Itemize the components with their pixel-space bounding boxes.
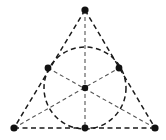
median-bottomleft-to-right [14, 68, 119, 128]
medians-group [14, 10, 155, 128]
geometry-figure-svg [0, 0, 166, 140]
median-bottomright-to-left [48, 68, 155, 128]
apex-vertex [81, 6, 88, 13]
incenter [82, 85, 88, 91]
geometry-figure-container [0, 0, 166, 140]
tangent-points-group [45, 65, 123, 132]
bottom-left-vertex [10, 124, 17, 131]
bottom-right-vertex [151, 124, 158, 131]
bottom-tangent-point [82, 125, 89, 132]
left-tangent-point [45, 65, 52, 72]
incenter-group [82, 85, 88, 91]
right-tangent-point [116, 65, 123, 72]
